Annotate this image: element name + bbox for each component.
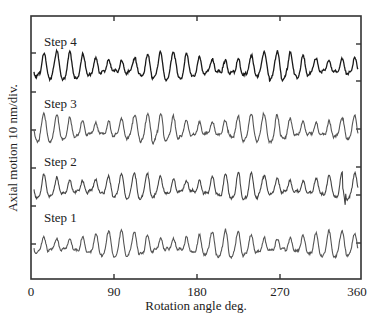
y-axis-label: Axial motion 10 nm/div. [5,84,20,212]
x-axis-label: Rotation angle deg. [145,298,246,313]
x-tick-label-180: 180 [187,284,207,299]
plot-frame [31,16,361,279]
x-ticks [114,16,280,279]
x-tick-label-0: 0 [28,284,35,299]
x-tick-label-270: 270 [270,284,290,299]
trace-step-4 [34,50,358,81]
trace-group [34,50,358,258]
step-label-3: Step 3 [44,96,77,111]
step-label-1: Step 1 [44,210,77,225]
step-label-2: Step 2 [44,154,77,169]
trace-step-2 [34,172,358,205]
trace-step-1 [34,229,358,258]
trace-step-3 [34,113,358,144]
x-tick-label-90: 90 [108,284,121,299]
x-tick-label-360: 360 [347,284,367,299]
chart-figure: Step 4 Step 3 Step 2 Step 1 0 90 180 270… [0,0,381,321]
step-label-4: Step 4 [44,34,77,49]
